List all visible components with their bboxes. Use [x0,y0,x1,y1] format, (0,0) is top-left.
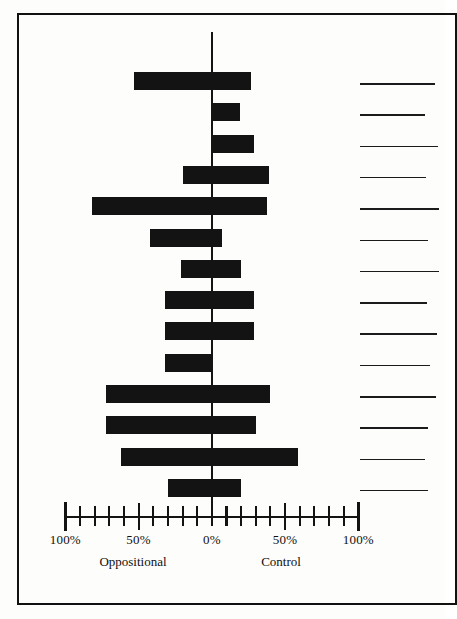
axis-tick [269,506,271,526]
axis-tick [108,506,110,526]
axis-tick [182,506,184,526]
axis-tick [138,503,140,530]
bar-row [0,260,445,278]
axis-tick [299,506,301,526]
bar-segment [168,479,241,497]
category-label-rule [360,302,427,304]
axis-tick [152,506,154,526]
category-label-rule [360,333,437,335]
category-label-rule [360,208,439,210]
bar-segment [106,385,270,403]
category-label-rule [360,83,435,85]
axis-tick [79,506,81,526]
axis-tick [357,502,360,531]
bar-row [0,135,445,153]
bar-row [0,479,445,497]
category-label-rule [360,459,425,461]
category-label-rule [360,114,425,116]
group-label-right: Control [261,554,301,570]
bar-row [0,291,445,309]
axis-tick [94,506,96,526]
group-label-left: Oppositional [99,554,166,570]
bar-row [0,72,445,90]
axis-tick [225,506,227,526]
axis-tick [240,506,242,526]
axis-tick [64,502,67,531]
bar-row [0,229,445,247]
bar-row [0,103,445,121]
category-label-rule [360,146,438,148]
category-label-rule [360,177,426,179]
bar-segment [181,260,241,278]
bar-row [0,448,445,466]
axis-tick-label: 100% [50,532,81,548]
bar-segment [150,229,222,247]
bar-row [0,166,445,184]
axis-tick [343,506,345,526]
axis-tick [328,506,330,526]
axis-tick-label: 0% [203,532,221,548]
bar-segment [134,72,251,90]
axis-tick [313,506,315,526]
category-label-rule [360,271,439,273]
bar-segment [121,448,298,466]
category-label-rule [360,490,428,492]
bar-segment [212,135,254,153]
bar-segment [165,354,212,372]
bar-segment [183,166,269,184]
bar-segment [165,291,254,309]
bar-segment [165,322,254,340]
axis-tick [211,506,213,526]
bar-row [0,322,445,340]
category-label-rule [360,240,428,242]
bar-row [0,354,445,372]
bar-row [0,197,445,215]
bar-segment [212,103,240,121]
axis-tick [167,506,169,526]
axis-tick [284,503,286,530]
category-label-rule [360,365,430,367]
axis-tick-label: 50% [126,532,150,548]
category-label-rule [360,396,436,398]
bar-segment [106,416,255,434]
category-label-rule [360,427,428,429]
axis-tick-label: 50% [273,532,297,548]
axis-tick-label: 100% [343,532,374,548]
axis-tick [196,506,198,526]
axis-tick [123,506,125,526]
bar-row [0,385,445,403]
bar-row [0,416,445,434]
bar-segment [92,197,268,215]
axis-tick [255,506,257,526]
